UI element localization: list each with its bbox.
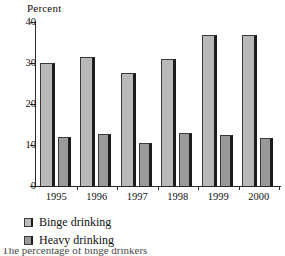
y-tick-label-wrap: 40 bbox=[0, 17, 36, 27]
chart-legend: Binge drinkingHeavy drinking bbox=[24, 213, 114, 249]
bar-binge-2000 bbox=[242, 35, 257, 186]
x-tick-mark bbox=[279, 186, 280, 190]
y-axis-title: Percent bbox=[27, 2, 61, 14]
plot-area bbox=[36, 22, 279, 186]
x-tick-mark bbox=[239, 186, 240, 190]
x-tick-label-1997: 1997 bbox=[117, 191, 158, 202]
bar-heavy-1998 bbox=[179, 133, 192, 186]
y-tick-label-wrap: 0 bbox=[0, 181, 36, 191]
y-tick-label: 40 bbox=[10, 17, 36, 27]
y-tick-label-wrap: 10 bbox=[0, 140, 36, 150]
bar-binge-1996 bbox=[80, 57, 95, 186]
bar-binge-1999 bbox=[202, 35, 217, 186]
legend-item-binge: Binge drinking bbox=[24, 213, 114, 231]
bar-heavy-1995 bbox=[58, 137, 71, 186]
x-tick-label-1999: 1999 bbox=[198, 191, 239, 202]
x-tick-label-1996: 1996 bbox=[77, 191, 118, 202]
x-tick-mark bbox=[117, 186, 118, 190]
x-tick-mark bbox=[198, 186, 199, 190]
bar-heavy-1997 bbox=[139, 143, 152, 186]
y-tick-label: 20 bbox=[10, 99, 36, 109]
bar-heavy-1999 bbox=[220, 135, 233, 186]
legend-label-heavy: Heavy drinking bbox=[39, 233, 114, 248]
legend-swatch-icon-binge bbox=[24, 218, 33, 227]
legend-label-binge: Binge drinking bbox=[39, 215, 111, 230]
legend-item-heavy: Heavy drinking bbox=[24, 231, 114, 249]
figure-caption: The percentage of binge drinkers bbox=[2, 248, 147, 256]
x-tick-mark bbox=[158, 186, 159, 190]
y-tick-label: 10 bbox=[10, 140, 36, 150]
x-tick-label-1998: 1998 bbox=[158, 191, 199, 202]
bar-binge-1998 bbox=[161, 59, 176, 186]
y-tick-label-wrap: 20 bbox=[0, 99, 36, 109]
caption-clip: The percentage of binge drinkers bbox=[0, 248, 285, 256]
y-tick-label: 0 bbox=[10, 181, 36, 191]
bar-binge-1997 bbox=[121, 73, 136, 186]
bar-binge-1995 bbox=[40, 63, 55, 186]
y-tick-label: 30 bbox=[10, 58, 36, 68]
x-tick-label-2000: 2000 bbox=[239, 191, 280, 202]
bar-heavy-1996 bbox=[98, 134, 111, 186]
y-tick-label-wrap: 30 bbox=[0, 58, 36, 68]
x-tick-mark bbox=[77, 186, 78, 190]
bar-chart-figure: Percent 010203040 1995199619971998199920… bbox=[0, 0, 285, 256]
bar-heavy-2000 bbox=[260, 138, 273, 186]
x-tick-label-1995: 1995 bbox=[36, 191, 77, 202]
legend-swatch-icon-heavy bbox=[24, 236, 33, 245]
